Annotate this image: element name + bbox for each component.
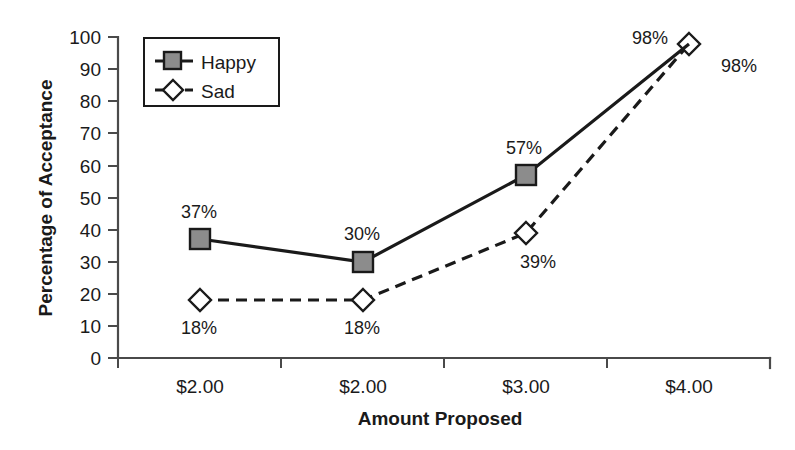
x-tick-label: $3.00 bbox=[502, 376, 550, 397]
series-happy-markers bbox=[190, 165, 536, 272]
chart-container: 100 90 80 70 60 50 40 30 20 10 0 $2.00 $… bbox=[0, 0, 795, 450]
legend-label-happy: Happy bbox=[201, 52, 256, 73]
data-point-label: 57% bbox=[506, 138, 542, 158]
data-point-marker bbox=[189, 289, 211, 311]
y-tick-label: 80 bbox=[80, 91, 101, 112]
x-tick-label: $2.00 bbox=[339, 376, 387, 397]
y-tick-label: 70 bbox=[80, 123, 101, 144]
data-point-label: 30% bbox=[344, 224, 380, 244]
y-tick-label: 10 bbox=[80, 316, 101, 337]
y-tick-label: 30 bbox=[80, 252, 101, 273]
y-tick-label: 50 bbox=[80, 188, 101, 209]
x-tick-marks bbox=[118, 358, 607, 368]
data-point-label: 98% bbox=[632, 28, 668, 48]
data-point-label: 18% bbox=[181, 318, 217, 338]
data-point-marker bbox=[352, 289, 374, 311]
y-tick-label: 0 bbox=[90, 348, 101, 369]
x-axis-title: Amount Proposed bbox=[358, 408, 523, 429]
legend-entry-happy[interactable]: Happy bbox=[155, 52, 256, 73]
x-tick-label: $4.00 bbox=[665, 376, 713, 397]
data-point-marker bbox=[190, 229, 210, 249]
y-tick-label: 90 bbox=[80, 59, 101, 80]
x-tick-label: $2.00 bbox=[176, 376, 224, 397]
data-point-label: 39% bbox=[520, 252, 556, 272]
chart-legend: Happy Sad bbox=[144, 38, 279, 106]
y-tick-labels: 100 90 80 70 60 50 40 30 20 10 0 bbox=[69, 27, 101, 369]
filled-square-icon bbox=[164, 52, 181, 69]
x-tick-labels: $2.00 $2.00 $3.00 $4.00 bbox=[176, 376, 713, 397]
y-tick-label: 100 bbox=[69, 27, 101, 48]
y-tick-label: 20 bbox=[80, 284, 101, 305]
y-tick-label: 60 bbox=[80, 156, 101, 177]
data-point-marker bbox=[353, 252, 373, 272]
data-point-label: 37% bbox=[181, 202, 217, 222]
y-tick-label: 40 bbox=[80, 220, 101, 241]
line-chart: 100 90 80 70 60 50 40 30 20 10 0 $2.00 $… bbox=[0, 0, 795, 450]
data-point-marker bbox=[516, 165, 536, 185]
legend-label-sad: Sad bbox=[201, 81, 235, 102]
y-tick-marks bbox=[108, 37, 118, 358]
data-point-label: 98% bbox=[721, 56, 757, 76]
y-axis-title: Percentage of Acceptance bbox=[35, 80, 56, 317]
data-point-label: 18% bbox=[344, 318, 380, 338]
